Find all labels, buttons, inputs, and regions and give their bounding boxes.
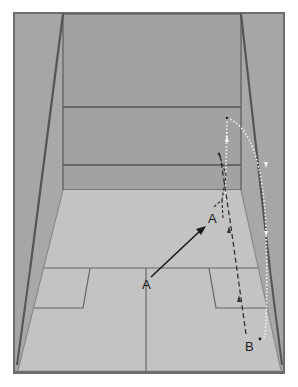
opponent-label: B	[245, 339, 254, 354]
ball-wall-dot	[218, 153, 221, 156]
opponent-dot	[259, 338, 262, 341]
front-wall	[63, 14, 241, 190]
player-end-label: A	[208, 211, 217, 226]
player-start-label: A	[142, 277, 151, 292]
ball-start-dot	[226, 117, 229, 120]
squash-court-diagram: A A B	[0, 0, 298, 387]
